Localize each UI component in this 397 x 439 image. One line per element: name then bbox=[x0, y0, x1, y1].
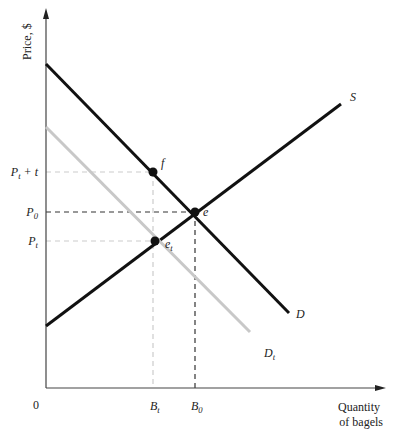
y-tick-label: P0 bbox=[25, 205, 38, 221]
x-tick-label: B0 bbox=[191, 399, 203, 415]
point-e bbox=[191, 208, 200, 217]
supply-demand-tax-diagram: DSDt efet Price, $ 0 Quantity of bagels … bbox=[0, 0, 397, 439]
guide-lines bbox=[46, 172, 195, 388]
y-axis-label: Price, $ bbox=[20, 23, 34, 60]
curve-label-d: D bbox=[295, 307, 305, 321]
x-axis-label: Quantity of bagels bbox=[338, 400, 383, 429]
y-tick-label: Pt bbox=[27, 234, 38, 250]
x-tick-label: Bt bbox=[150, 399, 160, 415]
point-e-t bbox=[151, 237, 160, 246]
curves: DSDt bbox=[46, 64, 356, 362]
point-label-e: e bbox=[203, 205, 209, 219]
curve-label-d-t: Dt bbox=[263, 346, 276, 362]
y-axis-arrow-icon bbox=[43, 8, 49, 19]
y-tick-label: Pt + t bbox=[10, 165, 39, 181]
point-f bbox=[149, 168, 158, 177]
x-axis-label-line1: Quantity bbox=[338, 400, 380, 414]
curve-label-s: S bbox=[350, 90, 356, 104]
curve-d bbox=[46, 64, 289, 313]
point-label-f: f bbox=[161, 156, 166, 170]
origin-label: 0 bbox=[33, 398, 39, 412]
x-axis-arrow-icon bbox=[375, 385, 386, 391]
equilibrium-points: efet bbox=[149, 156, 210, 253]
point-label-e-t: et bbox=[165, 237, 173, 253]
x-axis-label-line2: of bagels bbox=[339, 415, 383, 429]
tick-labels: Pt + tP0PtBtB0 bbox=[10, 165, 204, 415]
